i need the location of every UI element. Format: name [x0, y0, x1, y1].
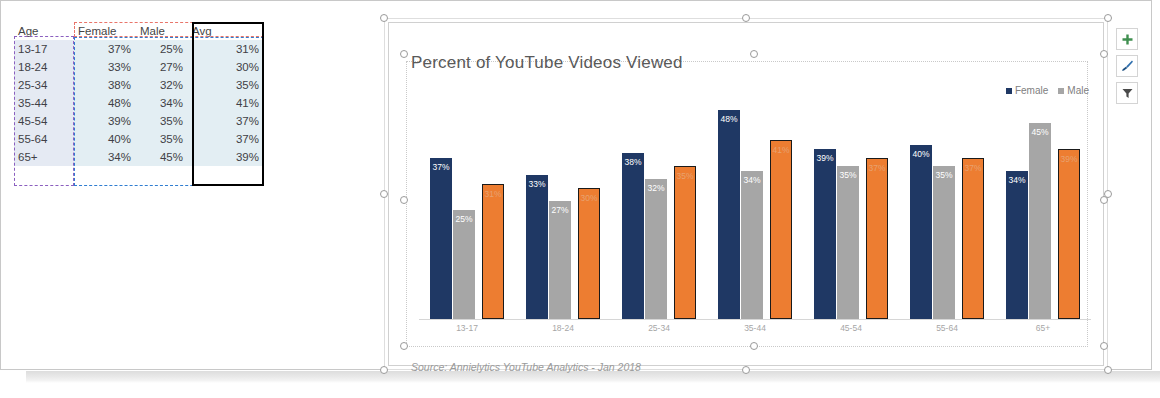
- chart-title[interactable]: Percent of YouTube Videos Viewed: [411, 53, 683, 73]
- source-data-table[interactable]: Age Female Male Avg 13-1737%25%31%18-243…: [14, 22, 264, 166]
- cell-female[interactable]: 34%: [74, 148, 136, 166]
- bar-female[interactable]: 34%: [1006, 171, 1028, 319]
- column-header-male[interactable]: Male: [136, 22, 188, 40]
- bar-avg[interactable]: 39%: [1058, 149, 1080, 319]
- cell-age[interactable]: 45-54: [14, 112, 74, 130]
- table-row[interactable]: 35-4448%34%41%: [14, 94, 264, 112]
- bar-avg[interactable]: 37%: [962, 158, 984, 319]
- bar-group[interactable]: 48%34%41%: [714, 101, 796, 319]
- chart-legend[interactable]: Female Male: [1006, 85, 1089, 96]
- handle-inner-tm[interactable]: [750, 50, 758, 58]
- cell-age[interactable]: 65+: [14, 148, 74, 166]
- bar-avg[interactable]: 35%: [674, 166, 696, 319]
- bar-avg[interactable]: 41%: [770, 140, 792, 319]
- bar-group[interactable]: 34%45%39%: [1002, 101, 1084, 319]
- cell-male[interactable]: 25%: [136, 40, 188, 58]
- cell-female[interactable]: 40%: [74, 130, 136, 148]
- cell-female[interactable]: 38%: [74, 76, 136, 94]
- bar-group[interactable]: 37%25%31%: [426, 101, 508, 319]
- handle-inner-bm[interactable]: [750, 342, 758, 350]
- bar-male[interactable]: 35%: [933, 166, 955, 319]
- bar-group[interactable]: 38%32%35%: [618, 101, 700, 319]
- bar-female[interactable]: 48%: [718, 110, 740, 319]
- table-row[interactable]: 65+34%45%39%: [14, 148, 264, 166]
- handle-outer-tm[interactable]: [742, 14, 750, 22]
- cell-avg[interactable]: 41%: [188, 94, 264, 112]
- bar-male[interactable]: 27%: [549, 201, 571, 319]
- column-header-age[interactable]: Age: [14, 22, 74, 40]
- cell-avg[interactable]: 37%: [188, 130, 264, 148]
- cell-male[interactable]: 35%: [136, 130, 188, 148]
- bar-female[interactable]: 40%: [910, 145, 932, 319]
- table-row[interactable]: 45-5439%35%37%: [14, 112, 264, 130]
- cell-age[interactable]: 25-34: [14, 76, 74, 94]
- table-row[interactable]: 13-1737%25%31%: [14, 40, 264, 58]
- bar-group[interactable]: 40%35%37%: [906, 101, 988, 319]
- bar-data-label: 35%: [933, 170, 955, 180]
- bar-data-label: 27%: [549, 205, 571, 215]
- bar-male[interactable]: 32%: [645, 179, 667, 319]
- bar-male[interactable]: 45%: [1029, 123, 1051, 319]
- handle-inner-tl[interactable]: [400, 50, 408, 58]
- bar-female[interactable]: 33%: [526, 175, 548, 319]
- handle-inner-mr[interactable]: [1100, 196, 1108, 204]
- cell-male[interactable]: 45%: [136, 148, 188, 166]
- cell-male[interactable]: 34%: [136, 94, 188, 112]
- bar-male[interactable]: 25%: [453, 210, 475, 319]
- column-header-female[interactable]: Female: [74, 22, 136, 40]
- bar-data-label: 37%: [867, 163, 887, 173]
- handle-outer-tl[interactable]: [380, 14, 388, 22]
- cell-female[interactable]: 39%: [74, 112, 136, 130]
- bar-avg[interactable]: 30%: [578, 188, 600, 319]
- bar-avg[interactable]: 31%: [482, 184, 504, 319]
- bar-female[interactable]: 39%: [814, 149, 836, 319]
- bar-male[interactable]: 35%: [837, 166, 859, 319]
- legend-item-female[interactable]: Female: [1006, 85, 1048, 96]
- bar-data-label: 35%: [675, 171, 695, 181]
- legend-swatch-female: [1006, 88, 1012, 94]
- cell-age[interactable]: 13-17: [14, 40, 74, 58]
- chart-styles-button[interactable]: [1116, 55, 1138, 77]
- handle-outer-bl[interactable]: [380, 366, 388, 374]
- bar-male[interactable]: 34%: [741, 171, 763, 319]
- chart-plot-area[interactable]: 37%25%31%33%27%30%38%32%35%48%34%41%39%3…: [419, 101, 1091, 319]
- handle-inner-tr[interactable]: [1100, 50, 1108, 58]
- handle-outer-ml[interactable]: [380, 190, 388, 198]
- handle-outer-br[interactable]: [1104, 366, 1112, 374]
- column-header-avg[interactable]: Avg: [188, 22, 264, 40]
- bar-female[interactable]: 37%: [430, 158, 452, 319]
- chart-filters-button[interactable]: [1116, 82, 1138, 104]
- cell-avg[interactable]: 35%: [188, 76, 264, 94]
- handle-outer-bm[interactable]: [742, 366, 750, 374]
- bar-group[interactable]: 39%35%37%: [810, 101, 892, 319]
- handle-inner-bl[interactable]: [400, 342, 408, 350]
- handle-inner-ml[interactable]: [400, 196, 408, 204]
- legend-item-male[interactable]: Male: [1058, 85, 1089, 96]
- category-axis-labels[interactable]: 13-1718-2425-3435-4445-5455-6465+: [419, 323, 1091, 333]
- bar-data-label: 32%: [645, 183, 667, 193]
- chart-quick-buttons[interactable]: [1116, 28, 1138, 104]
- cell-female[interactable]: 48%: [74, 94, 136, 112]
- handle-inner-br[interactable]: [1100, 342, 1108, 350]
- cell-age[interactable]: 35-44: [14, 94, 74, 112]
- cell-male[interactable]: 32%: [136, 76, 188, 94]
- chart-object[interactable]: Percent of YouTube Videos Viewed Female …: [388, 22, 1104, 366]
- cell-age[interactable]: 18-24: [14, 58, 74, 76]
- cell-avg[interactable]: 39%: [188, 148, 264, 166]
- cell-avg[interactable]: 30%: [188, 58, 264, 76]
- bar-avg[interactable]: 37%: [866, 158, 888, 319]
- cell-age[interactable]: 55-64: [14, 130, 74, 148]
- handle-outer-tr[interactable]: [1104, 14, 1112, 22]
- cell-female[interactable]: 33%: [74, 58, 136, 76]
- cell-avg[interactable]: 37%: [188, 112, 264, 130]
- table-row[interactable]: 25-3438%32%35%: [14, 76, 264, 94]
- table-row[interactable]: 55-6440%35%37%: [14, 130, 264, 148]
- table-row[interactable]: 18-2433%27%30%: [14, 58, 264, 76]
- cell-avg[interactable]: 31%: [188, 40, 264, 58]
- cell-male[interactable]: 27%: [136, 58, 188, 76]
- chart-elements-button[interactable]: [1116, 28, 1138, 50]
- cell-female[interactable]: 37%: [74, 40, 136, 58]
- cell-male[interactable]: 35%: [136, 112, 188, 130]
- bar-group[interactable]: 33%27%30%: [522, 101, 604, 319]
- bar-female[interactable]: 38%: [622, 153, 644, 319]
